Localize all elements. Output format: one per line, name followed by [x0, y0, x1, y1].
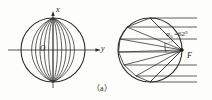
angle-label: φ0 =62° — [166, 31, 188, 39]
y-axis-arrowhead — [96, 48, 101, 51]
x-axis-arrowhead — [51, 11, 54, 16]
origin-label: O — [40, 45, 45, 53]
y-axis-label: y — [101, 45, 105, 53]
parallel-lines — [119, 18, 197, 82]
focus-point-label: F — [187, 52, 192, 60]
angle-label-value: =62° — [172, 30, 188, 38]
left-sphere-group — [8, 11, 100, 88]
x-axis-label: x — [56, 6, 60, 14]
angle-leader-line — [166, 41, 172, 44]
figure-caption: （a） — [92, 85, 112, 93]
focus-point-marker — [180, 48, 183, 51]
facet-edge — [120, 27, 127, 39]
focus-ray — [136, 50, 182, 76]
right-projection-group — [118, 18, 197, 82]
facet-edge — [127, 18, 150, 27]
figure-container: x y O φ0 =62° F （a） — [0, 0, 212, 100]
